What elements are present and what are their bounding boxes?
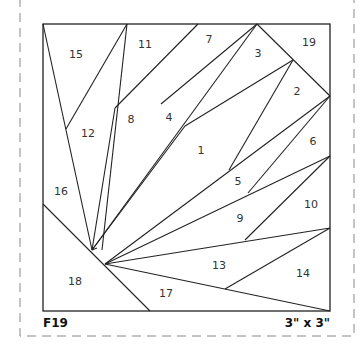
piece-number-label: 3 bbox=[255, 47, 262, 60]
piece-number-label: 12 bbox=[81, 127, 95, 140]
piece-number-label: 11 bbox=[138, 38, 152, 51]
piece-number-label: 4 bbox=[166, 111, 173, 124]
piece-number-label: 15 bbox=[69, 48, 83, 61]
piece-number-label: 10 bbox=[304, 198, 318, 211]
piece-number-label: 19 bbox=[302, 36, 316, 49]
piece-number-label: 14 bbox=[296, 267, 310, 280]
piece-number-label: 13 bbox=[212, 259, 226, 272]
pattern-id-label: F19 bbox=[43, 316, 68, 330]
block-outline bbox=[43, 24, 330, 311]
piece-lines bbox=[43, 24, 330, 311]
piece-number-label: 5 bbox=[235, 175, 242, 188]
piece-number-label: 1 bbox=[198, 144, 205, 157]
piece-number-label: 18 bbox=[68, 275, 82, 288]
piece-number-label: 6 bbox=[310, 135, 317, 148]
piece-number-label: 16 bbox=[54, 185, 68, 198]
piece-number-label: 2 bbox=[294, 85, 301, 98]
piece-number-label: 7 bbox=[206, 33, 213, 46]
piece-number-label: 8 bbox=[128, 113, 135, 126]
piece-number-label: 17 bbox=[159, 287, 173, 300]
pattern-size-label: 3" x 3" bbox=[285, 316, 330, 330]
foundation-piecing-pattern: 12345678910111213141516171819 F19 3" x 3… bbox=[0, 0, 363, 357]
piece-number-label: 9 bbox=[237, 212, 244, 225]
